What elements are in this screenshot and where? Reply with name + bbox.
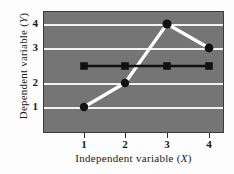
series-layer (43, 11, 224, 133)
x-axis-title-variable: X (181, 152, 188, 164)
black-series-point (121, 62, 129, 70)
black-series-point (205, 62, 213, 70)
x-tick-label: 3 (159, 138, 175, 150)
white-series-point (205, 44, 214, 53)
y-axis-title-close: ) (17, 13, 29, 17)
white-series-point (80, 103, 88, 111)
x-axis-title-close: ) (188, 152, 192, 164)
white-series-point (121, 79, 129, 87)
x-tick-label: 2 (117, 138, 133, 150)
x-axis-title: Independent variable (X) (43, 152, 224, 164)
black-series-point (80, 62, 88, 70)
x-axis-title-text: Independent variable ( (75, 152, 181, 164)
y-axis-title-text: Dependent variable ( (17, 23, 29, 119)
y-axis-title: Dependent variable (Y) (17, 3, 29, 129)
x-tick-label: 1 (76, 138, 92, 150)
x-tick-label: 4 (201, 138, 217, 150)
chart-figure: 1 2 3 4 4 3 2 1 Independent variable (X)… (0, 0, 234, 174)
y-axis-title-variable: Y (17, 17, 29, 23)
white-series-point (162, 19, 171, 28)
black-series-point (163, 62, 171, 70)
